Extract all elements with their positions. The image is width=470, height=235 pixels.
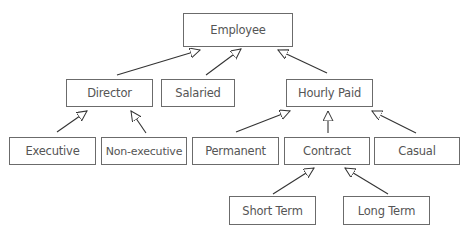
class-box-director: Director — [66, 79, 153, 107]
class-box-non-executive: Non-executive — [101, 137, 187, 165]
arrow-director-to-employee — [117, 50, 200, 75]
class-box-executive: Executive — [9, 137, 96, 165]
arrow-salaried-to-employee — [206, 49, 241, 75]
class-box-salaried: Salaried — [161, 79, 235, 107]
class-box-hourly-paid: Hourly Paid — [286, 79, 373, 107]
arrow-permanent-to-hourly-paid — [236, 111, 290, 132]
class-box-short-term: Short Term — [229, 196, 316, 225]
class-box-long-term: Long Term — [343, 196, 430, 225]
arrow-executive-to-director — [57, 111, 87, 132]
class-box-permanent: Permanent — [192, 137, 279, 165]
arrow-non-executive-to-director — [131, 111, 146, 133]
class-hierarchy-diagram: Employee Director Salaried Hourly Paid E… — [0, 0, 470, 235]
arrow-hourly-paid-to-employee — [278, 50, 327, 73]
arrow-short-term-to-contract — [273, 168, 314, 194]
class-box-contract: Contract — [284, 137, 370, 165]
arrow-long-term-to-contract — [345, 168, 388, 194]
class-box-casual: Casual — [374, 137, 460, 165]
class-box-employee: Employee — [183, 13, 293, 47]
arrow-casual-to-hourly-paid — [372, 111, 416, 133]
